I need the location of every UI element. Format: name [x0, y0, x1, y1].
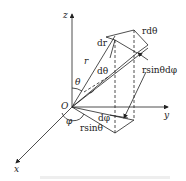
x-label: x	[14, 164, 19, 174]
theta-label: θ	[75, 77, 81, 87]
dr-label: dr	[97, 38, 108, 48]
origin-label: O	[61, 101, 69, 111]
r-dtheta-label: rdθ	[142, 26, 157, 36]
spherical-volume-element-diagram: z y x O dr rdθ r dθ θ rsinθdφ dφ φ rsinθ	[0, 0, 186, 181]
dphi-label: dφ	[98, 113, 110, 123]
y-label: y	[163, 110, 170, 120]
diagram-canvas: z y x O dr rdθ r dθ θ rsinθdφ dφ φ rsinθ	[0, 0, 186, 181]
caption-faint	[40, 176, 170, 179]
phi-label: φ	[66, 116, 73, 126]
r-label: r	[84, 56, 89, 66]
r-sin-theta-label: rsinθ	[80, 123, 103, 133]
z-label: z	[62, 10, 68, 20]
r-sin-theta-dphi-label: rsinθdφ	[142, 65, 177, 75]
dtheta-label: dθ	[97, 66, 108, 76]
